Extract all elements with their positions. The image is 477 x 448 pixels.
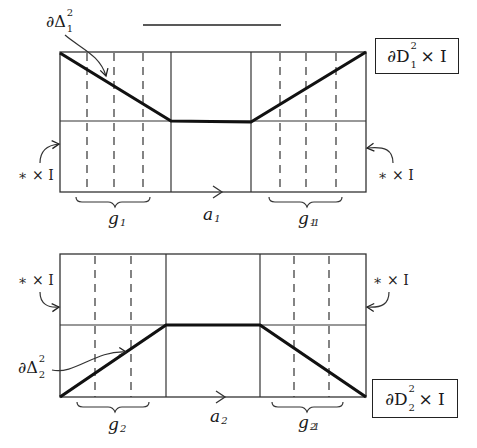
a2-label: a2 [210,408,220,425]
star-arrow-top-left [40,144,59,163]
bottom-boundary-label: ∂Δ22 [18,360,43,376]
g1-brace [76,197,150,207]
top-label-sup: 2 [411,40,417,51]
g2-inv-base: g [298,414,309,431]
g2-brace [77,402,149,412]
boundary-sub: 2 [39,370,45,380]
g2-inverse-brace [272,402,343,412]
a2-base: a [210,408,220,425]
top-boundary-label: ∂Δ21 [46,14,71,30]
bottom-label-box: ∂D22 × I [372,379,458,418]
g1-base: g [108,210,119,227]
bottom-label-sup: 2 [409,383,415,394]
g2-inverse-label: g-12 [298,414,309,431]
boundary-symbol: ∂Δ [18,360,38,376]
bottom-label-suffix: × I [418,389,444,409]
top-left-star-label: ∗ × I [18,168,54,182]
bottom-label-sub: 2 [409,402,415,413]
boundary-symbol: ∂Δ [46,14,66,30]
a1-base: a [203,206,213,223]
top-label-suffix: × I [420,46,446,66]
boundary-sup: 2 [67,8,73,18]
a1-sub: 1 [214,214,220,224]
g1-inv-sub: 1 [310,218,316,228]
g2-base: g [108,416,119,433]
star-arrow-top-right [367,148,393,163]
bottom-right-star-label: ∗ × I [373,273,409,287]
bottom-boundary-path [60,325,366,397]
star-arrow-bottom-left [40,292,59,307]
top-boundary-path [60,52,366,122]
a2-sub: 2 [221,416,227,426]
g1-sub: 1 [120,218,126,228]
bottom-left-star-label: ∗ × I [18,273,54,287]
boundary-sub: 1 [67,24,73,34]
g1-label: g1 [108,210,119,227]
g1-inv-base: g [298,210,309,227]
g1-inverse-label: g-11 [298,210,309,227]
top-label-box: ∂D21 × I [375,38,459,74]
g2-sub: 2 [120,424,126,434]
star-arrow-bottom-right [367,292,389,307]
boundary-sup: 2 [39,354,45,364]
g1-inverse-brace [269,197,342,207]
top-label-sub: 1 [411,59,417,70]
top-right-star-label: ∗ × I [378,168,414,182]
a1-label: a1 [203,206,213,223]
top-label-symbol: ∂D [387,46,409,66]
bottom-diagram [40,254,389,412]
bottom-label-symbol: ∂D [385,389,407,409]
top-diagram [40,35,393,207]
g2-inv-sub: 2 [310,422,316,432]
g2-label: g2 [108,416,119,433]
